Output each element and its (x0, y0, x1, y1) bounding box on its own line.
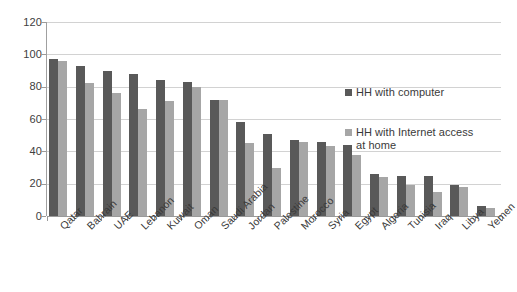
y-axis-tick-mark (41, 119, 46, 120)
legend-swatch-icon (345, 89, 352, 96)
bar-group (47, 22, 74, 216)
bar-series-hh-with-computer (129, 74, 138, 216)
bar-series-hh-with-computer (343, 145, 352, 216)
bar-series-hh-with-internet-access-at-home (352, 155, 361, 216)
bar-group (368, 22, 395, 216)
y-axis-tick-label: 40 (2, 146, 42, 157)
y-axis-tick-mark (41, 87, 46, 88)
y-axis-tick-label: 80 (2, 81, 42, 92)
bar-series-hh-with-computer (156, 80, 165, 216)
y-axis-tick-label: 20 (2, 178, 42, 189)
y-axis-tick-mark (41, 184, 46, 185)
bar-group (395, 22, 422, 216)
bar-series-hh-with-internet-access-at-home (406, 185, 415, 216)
bar-group (208, 22, 235, 216)
gridline (47, 216, 501, 217)
y-axis-tick-label: 100 (2, 49, 42, 60)
bar-series-hh-with-computer (49, 59, 58, 216)
y-axis-tick-mark (41, 22, 46, 23)
bar-group (154, 22, 181, 216)
y-axis-tick-mark (41, 216, 46, 217)
bar-series-hh-with-computer (450, 185, 459, 216)
bar-group (181, 22, 208, 216)
legend-entry-hh-with-internet-access-at-home: HH with Internet access at home (345, 126, 480, 152)
y-axis-tick-mark (41, 151, 46, 152)
legend-label: HH with computer (356, 86, 444, 99)
bar-series-hh-with-internet-access-at-home (138, 109, 147, 216)
bar-series-hh-with-computer (103, 71, 112, 217)
bar-group (341, 22, 368, 216)
y-axis-tick-label: 120 (2, 17, 42, 28)
y-axis-tick-label: 0 (2, 211, 42, 222)
legend-label: HH with Internet access at home (356, 126, 480, 152)
bar-series-hh-with-computer (183, 82, 192, 216)
legend-entry-hh-with-computer: HH with computer (345, 86, 444, 99)
bar-group (448, 22, 475, 216)
bar-series-hh-with-internet-access-at-home (85, 83, 94, 216)
bar-series-hh-with-internet-access-at-home (459, 187, 468, 216)
bar-series-hh-with-internet-access-at-home (58, 61, 67, 216)
bar-group (422, 22, 449, 216)
y-axis-tick-mark (41, 54, 46, 55)
y-axis-tick-label: 60 (2, 114, 42, 125)
bar-group (74, 22, 101, 216)
bar-group (101, 22, 128, 216)
bar-group (315, 22, 342, 216)
bar-series-hh-with-internet-access-at-home (192, 87, 201, 216)
bar-series-hh-with-computer (210, 100, 219, 216)
bar-group (475, 22, 502, 216)
legend-swatch-icon (345, 129, 352, 136)
bar-series-hh-with-internet-access-at-home (379, 177, 388, 216)
bar-series-hh-with-computer (76, 66, 85, 216)
bar-series-hh-with-internet-access-at-home (112, 93, 121, 216)
bars-layer (47, 22, 501, 216)
x-axis-tick-mark (47, 216, 48, 221)
bar-series-hh-with-internet-access-at-home (219, 100, 228, 216)
bar-group (288, 22, 315, 216)
bar-group (127, 22, 154, 216)
